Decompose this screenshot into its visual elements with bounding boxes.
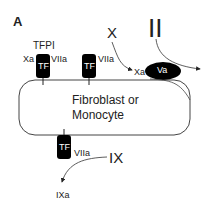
cell-label-line1: Fibroblast or [72, 94, 139, 106]
xa-bound-label: Xa [23, 55, 34, 64]
tf-label-3: TF [59, 143, 70, 152]
tf-label-1: TF [38, 62, 49, 71]
x-to-xa-arrow [112, 42, 132, 70]
factor-ii-label: II [148, 15, 162, 41]
factor-ixa-label: IXa [56, 191, 70, 200]
factor-ix-label: IX [109, 150, 123, 165]
viia-label-2: VIIa [98, 55, 114, 64]
factor-xa-label: Xa [134, 68, 145, 77]
ix-to-ixa-arrow [62, 157, 107, 182]
cell-label-line2: Monocyte [72, 109, 124, 121]
tfpi-label: TFPI [33, 41, 55, 51]
factor-x-label: X [107, 25, 117, 40]
viia-label-1: VIIa [51, 55, 67, 64]
viia-label-3: VIIa [74, 149, 90, 158]
factor-va-label: Va [157, 66, 167, 75]
tf-label-2: TF [84, 62, 95, 71]
panel-label: A [13, 15, 22, 28]
